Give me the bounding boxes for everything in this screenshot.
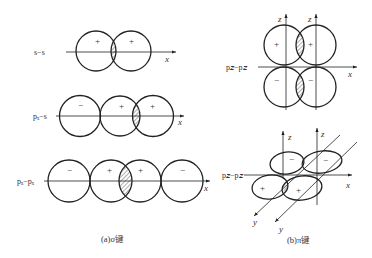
caption-sigma-bond: (a)σ键	[101, 234, 124, 244]
pi-pz-pz-side-view: p𝑧−p𝑧 x z z + + − −	[226, 14, 357, 110]
z-axis-label: z	[277, 14, 282, 24]
y-axis-label: y	[252, 217, 257, 227]
sign-plus: +	[138, 165, 143, 175]
sign-plus: +	[274, 39, 279, 49]
z-axis-label: z	[320, 129, 325, 139]
sigma-px-s-row: pₓ−s x − + +	[33, 96, 184, 137]
sign-plus: +	[129, 36, 134, 46]
sign-plus: +	[296, 185, 301, 195]
x-axis-label: x	[203, 183, 208, 193]
x-axis-label: x	[164, 54, 169, 64]
row-label-s-s: s−s	[34, 48, 45, 57]
sign-plus: +	[150, 101, 155, 111]
sign-minus: −	[308, 75, 313, 85]
y-axis-label: y	[278, 224, 283, 234]
z-axis-label: z	[287, 132, 292, 142]
sign-plus: +	[119, 101, 124, 111]
sign-minus: −	[289, 154, 294, 164]
x-axis-label: x	[347, 69, 352, 79]
sigma-s-s-row: s−s x + +	[34, 31, 176, 71]
sign-minus: −	[78, 100, 83, 110]
sign-plus: +	[107, 165, 112, 175]
sign-plus: +	[308, 39, 313, 49]
sigma-px-px-row: pₓ−pₓ x − + + −	[17, 160, 210, 202]
sign-minus: −	[323, 155, 328, 165]
sign-plus: +	[95, 36, 100, 46]
sign-minus: −	[274, 75, 279, 85]
row-label-pz-pz: p𝑧−p𝑧	[222, 171, 244, 180]
z-axis-label: z	[307, 14, 312, 24]
row-label-pz-pz: p𝑧−p𝑧	[226, 63, 248, 72]
orbital-overlap-diagram: s−s x + + pₓ−s x − + + pₓ−pₓ x − + + − (…	[0, 0, 372, 258]
row-label-px-s: pₓ−s	[33, 112, 47, 121]
sign-minus: −	[67, 165, 72, 175]
x-axis-label: x	[345, 180, 350, 190]
caption-pi-bond: (b)π键	[287, 235, 310, 245]
row-label-px-px: pₓ−pₓ	[17, 177, 35, 186]
sign-plus: +	[260, 183, 265, 193]
sign-minus: −	[180, 165, 185, 175]
x-axis-label: x	[177, 117, 182, 127]
pi-pz-pz-perspective-view: p𝑧−p𝑧 x z z y y − − + +	[222, 128, 357, 234]
